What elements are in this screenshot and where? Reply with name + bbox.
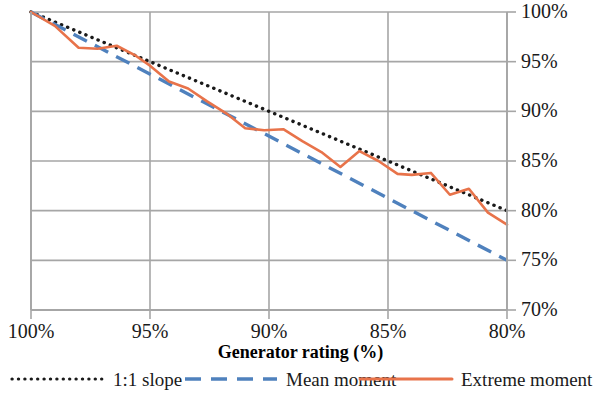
y-tick-label: 85% — [521, 150, 558, 170]
legend-label: Extreme moment — [461, 370, 592, 389]
x-axis-title: Generator rating (%) — [0, 343, 601, 362]
y-tick-label: 100% — [521, 1, 568, 21]
legend-swatch-dashed-icon — [183, 372, 279, 386]
chart-legend: 1:1 slopeMean momentExtreme moment — [0, 366, 601, 392]
legend-swatch-solid-icon — [358, 372, 454, 386]
legend-swatch-dotted-icon — [10, 372, 106, 386]
legend-item[interactable]: 1:1 slope — [10, 370, 182, 389]
y-tick-label: 90% — [521, 100, 558, 120]
x-tick-label: 90% — [219, 321, 319, 341]
x-tick-label: 100% — [0, 321, 81, 341]
y-tick-label: 75% — [521, 249, 558, 269]
y-tick-label: 80% — [521, 200, 558, 220]
x-tick-label: 95% — [100, 321, 200, 341]
x-tick-label: 85% — [338, 321, 438, 341]
y-tick-label: 95% — [521, 51, 558, 71]
axis-ticks — [31, 12, 516, 319]
x-tick-label: 80% — [457, 321, 557, 341]
y-tick-label: 70% — [521, 299, 558, 319]
gridlines — [31, 12, 507, 310]
legend-label: 1:1 slope — [113, 370, 182, 389]
chart-figure: 100%95%90%85%80%75%70% 100%95%90%85%80% … — [0, 0, 601, 395]
legend-item[interactable]: Extreme moment — [358, 370, 592, 389]
